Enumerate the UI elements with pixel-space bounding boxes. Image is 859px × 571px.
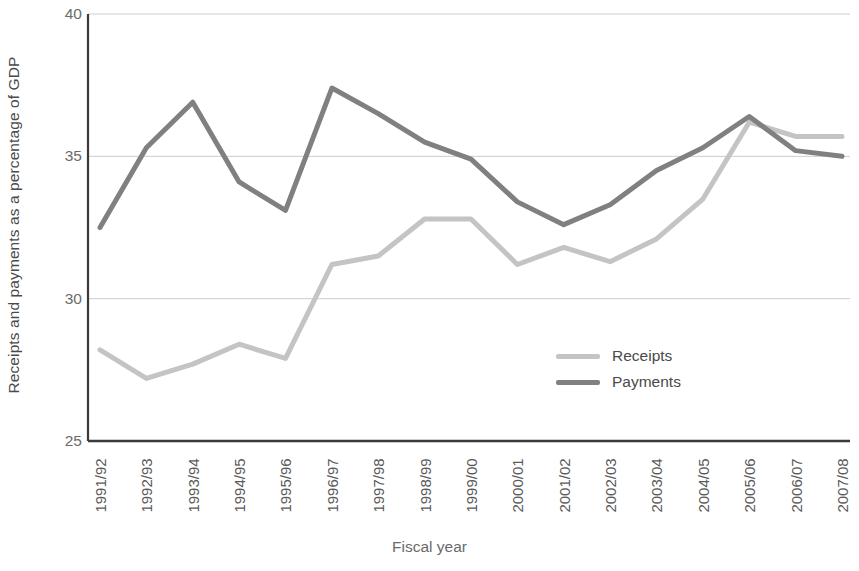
- x-tick-label-text: 1994/95: [231, 458, 248, 512]
- x-tick-label-text: 1997/98: [370, 458, 387, 512]
- x-tick-label-text: 1999/00: [463, 458, 480, 512]
- x-tick-label-text: 1992/93: [138, 458, 155, 512]
- axis-lines: [88, 14, 850, 441]
- x-tick-label: 1995/96: [277, 447, 295, 533]
- x-tick-label-text: 2005/06: [741, 458, 758, 512]
- legend-label-payments: Payments: [612, 373, 681, 391]
- x-tick-label-text: 1995/96: [277, 458, 294, 512]
- x-tick-label-text: 2002/03: [602, 458, 619, 512]
- legend-item-receipts: Receipts: [556, 343, 681, 369]
- x-tick-label: 2002/03: [601, 447, 619, 533]
- x-tick-label: 2000/01: [508, 447, 526, 533]
- chart-legend: ReceiptsPayments: [556, 343, 681, 395]
- series-line-payments: [100, 88, 842, 227]
- x-tick-label: 1996/97: [323, 447, 341, 533]
- x-tick-label: 1992/93: [137, 447, 155, 533]
- x-tick-label: 1997/98: [369, 447, 387, 533]
- x-tick-label-text: 2003/04: [648, 458, 665, 512]
- x-tick-label: 1991/92: [91, 447, 109, 533]
- x-tick-label: 1993/94: [184, 447, 202, 533]
- x-tick-label-text: 2001/02: [555, 458, 572, 512]
- x-axis-ticks: 1991/921992/931993/941994/951995/961996/…: [88, 447, 850, 535]
- y-axis-ticks: 40353025: [0, 0, 82, 460]
- x-tick-label: 2004/05: [694, 447, 712, 533]
- y-tick-label: 25: [38, 433, 82, 449]
- y-tick-label: 30: [38, 291, 82, 307]
- x-tick-label-text: 1991/92: [92, 458, 109, 512]
- x-tick-label-text: 1998/99: [416, 458, 433, 512]
- x-tick-label-text: 2004/05: [694, 458, 711, 512]
- x-tick-label: 1998/99: [416, 447, 434, 533]
- x-tick-label: 2006/07: [787, 447, 805, 533]
- x-tick-label: 1994/95: [230, 447, 248, 533]
- x-tick-label: 2003/04: [648, 447, 666, 533]
- legend-swatch-receipts: [556, 354, 600, 359]
- x-axis-title: Fiscal year: [0, 538, 859, 556]
- legend-item-payments: Payments: [556, 369, 681, 395]
- y-tick-label: 40: [38, 6, 82, 22]
- legend-swatch-payments: [556, 380, 600, 385]
- x-tick-label: 1999/00: [462, 447, 480, 533]
- chart-figure: Receipts and payments as a percentage of…: [0, 0, 859, 571]
- chart-svg: [88, 14, 850, 441]
- x-tick-label: 2007/08: [833, 447, 851, 533]
- x-tick-label-text: 1996/97: [323, 458, 340, 512]
- x-tick-label: 2001/02: [555, 447, 573, 533]
- plot-area: [88, 14, 850, 441]
- x-tick-label: 2005/06: [740, 447, 758, 533]
- series-lines: [100, 88, 842, 378]
- x-tick-label-text: 2006/07: [787, 458, 804, 512]
- x-tick-label-text: 1993/94: [184, 458, 201, 512]
- x-tick-label-text: 2000/01: [509, 458, 526, 512]
- gridlines: [88, 14, 850, 441]
- legend-label-receipts: Receipts: [612, 347, 672, 365]
- y-tick-label: 35: [38, 149, 82, 165]
- x-tick-label-text: 2007/08: [834, 458, 851, 512]
